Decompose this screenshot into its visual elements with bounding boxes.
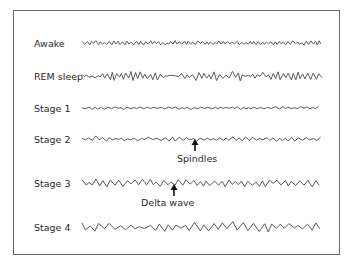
eeg-trace-stage-1 [82,107,318,110]
eeg-trace-stage-4 [82,222,320,232]
eeg-trace-stage-2 [82,136,321,141]
eeg-trace-stage-3 [82,179,319,187]
eeg-traces [0,0,348,267]
eeg-trace-rem-sleep [82,71,322,81]
delta-wave-arrow [171,184,178,196]
eeg-trace-awake [82,41,321,46]
